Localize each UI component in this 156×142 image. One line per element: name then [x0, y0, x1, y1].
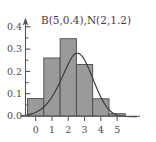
- x-tick-label-2: 2: [65, 124, 71, 135]
- y-tick-label-2: 0.2: [7, 66, 22, 77]
- x-tick-label-0: 0: [33, 124, 39, 135]
- y-tick-label-1: 0.1: [7, 88, 22, 99]
- x-tick-label-3: 3: [82, 124, 88, 135]
- x-tick-label-5: 5: [114, 124, 120, 135]
- y-tick-label-4: 0.4: [7, 21, 22, 32]
- binomial-normal-chart: 0.0 0.1 0.2 0.3 0.4 0 1 2 3 4 5 B(5,0.4)…: [0, 0, 156, 142]
- y-tick-label-3: 0.3: [7, 43, 22, 54]
- chart-figure: 0.0 0.1 0.2 0.3 0.4 0 1 2 3 4 5 B(5,0.4)…: [0, 0, 156, 142]
- chart-title: B(5,0.4),N(2,1.2): [41, 14, 131, 26]
- y-tick-label-0: 0.0: [7, 110, 22, 121]
- bar-0: [28, 99, 44, 116]
- x-tick-label-4: 4: [98, 124, 104, 135]
- x-tick-label-1: 1: [49, 124, 55, 135]
